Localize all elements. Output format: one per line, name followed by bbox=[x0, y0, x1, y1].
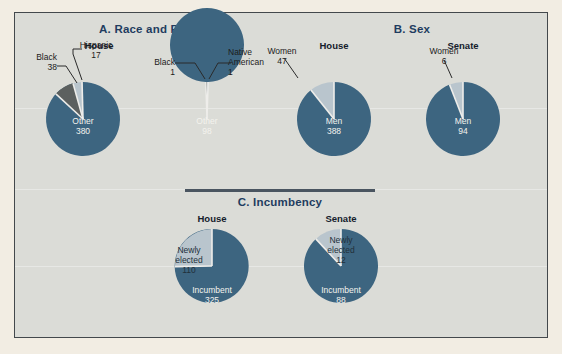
figure-panel: A. Race and Ethnicity House Senate Black… bbox=[14, 12, 548, 338]
label-c-house-incumbent: Incumbent 325 bbox=[178, 285, 246, 305]
label-b-senate-men: Men 94 bbox=[429, 116, 497, 136]
paper-streak bbox=[15, 266, 547, 267]
leader-line-a-senate-black bbox=[175, 59, 207, 81]
leader-line-a-house-hispanic bbox=[68, 47, 86, 83]
label-b-house-men: Men 388 bbox=[300, 116, 368, 136]
label-c-house-newly-elected: Newly elected 110 bbox=[165, 245, 213, 275]
section-title-a: A. Race and Ethnicity bbox=[15, 23, 305, 35]
section-title-b: B. Sex bbox=[359, 23, 465, 35]
label-c-senate-newly-elected: Newly elected 12 bbox=[315, 235, 367, 265]
label-a-senate-black: Black 1 bbox=[135, 57, 175, 77]
label-a-house-other: Other 380 bbox=[49, 116, 117, 136]
section-divider bbox=[185, 189, 375, 192]
leader-line-b-senate-women bbox=[442, 58, 460, 80]
label-a-senate-other: Other 98 bbox=[173, 116, 241, 136]
section-title-c: C. Incumbency bbox=[197, 196, 363, 208]
leader-line-b-house-women bbox=[282, 56, 304, 80]
label-c-senate-incumbent: Incumbent 88 bbox=[307, 285, 375, 305]
label-a-house-black: Black 38 bbox=[15, 52, 57, 72]
leader-line-a-senate-native-american bbox=[208, 59, 232, 81]
